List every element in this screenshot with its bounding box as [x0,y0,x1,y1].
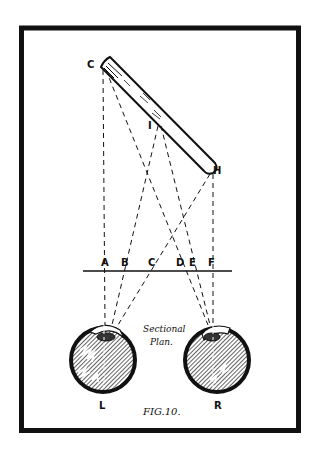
label-a: A [101,257,109,268]
label-h: H [213,165,221,176]
right-eye [185,325,249,392]
label-f: F [208,257,215,268]
annotation-sectional: Sectional [143,324,186,334]
frame-border [22,28,299,431]
label-e: E [189,257,196,268]
left-eye [71,325,135,392]
fig-10-diagram: C I H A B C D E F Sectional Plan. L R FI… [0,0,319,456]
annotation-plan: Plan. [149,337,173,347]
figure-caption: FIG.10. [142,406,181,417]
rod-tube [101,57,217,174]
label-d: D [176,257,184,268]
label-l: L [99,400,106,411]
label-c-top: C [87,59,94,70]
label-b: B [121,257,129,268]
label-r: R [214,400,222,411]
label-c-line: C [148,257,155,268]
label-i: I [148,120,152,131]
